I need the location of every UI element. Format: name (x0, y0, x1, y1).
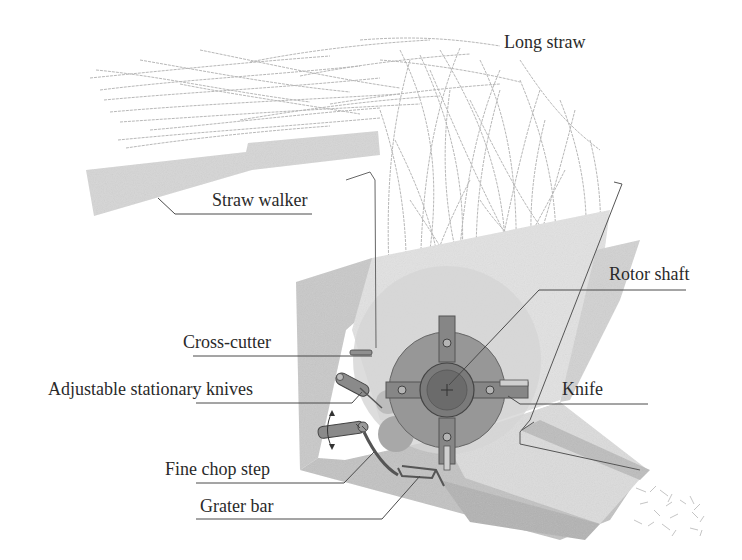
label-grater-bar: Grater bar (200, 497, 273, 515)
long-straw-horizontal (90, 38, 520, 148)
chopped-straw-output (634, 486, 704, 536)
label-straw-walker: Straw walker (212, 191, 307, 209)
label-knife: Knife (562, 380, 603, 398)
label-rotor-shaft: Rotor shaft (609, 265, 690, 283)
label-adjustable-stationary-knives: Adjustable stationary knives (48, 380, 253, 398)
label-cross-cutter: Cross-cutter (183, 333, 271, 351)
label-fine-chop-step: Fine chop step (165, 460, 270, 478)
label-long-straw: Long straw (504, 33, 585, 51)
straw-chopper-diagram: Long straw Straw walker Rotor shaft Cros… (0, 0, 742, 560)
